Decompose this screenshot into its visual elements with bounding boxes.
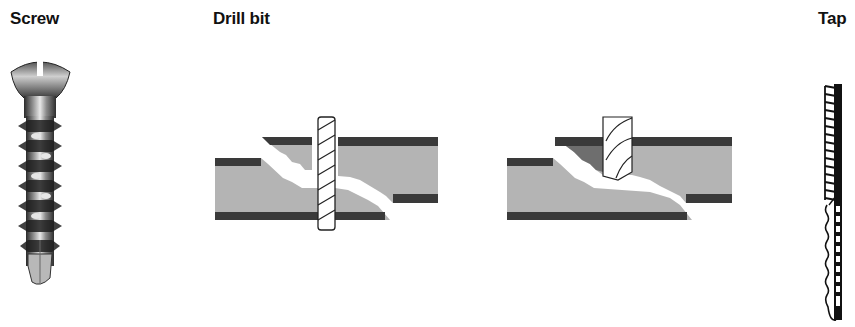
drill-entering-fracture-diagram: [490, 100, 760, 240]
label-screw: Screw: [10, 9, 59, 29]
label-drill-bit: Drill bit: [213, 9, 270, 29]
screw-illustration: [0, 50, 90, 300]
drill-through-fracture-diagram: [200, 100, 460, 240]
label-tap: Tap: [818, 9, 846, 29]
tap-illustration: [810, 75, 855, 327]
